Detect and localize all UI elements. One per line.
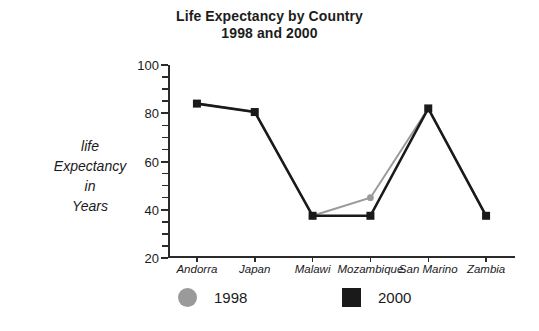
data-point-2000-japan [251,108,259,116]
series-line-1998 [197,104,486,216]
line-chart: Life Expectancy by Country 1998 and 2000… [0,0,539,331]
x-tick-label-malawi: Malawi [295,263,331,275]
chart-title: Life Expectancy by Country 1998 and 2000 [0,8,539,42]
x-tick-label-mozambique: Mozambique [337,263,403,275]
y-tick-label-40: 40 [145,203,159,216]
series-2000 [193,100,490,220]
y-tick-label-60: 60 [145,155,159,168]
series-1998 [194,100,490,219]
y-tick-20 [161,257,168,259]
y-tick-label-20: 20 [145,252,159,265]
chart-legend: 1998 2000 [0,288,539,322]
y-axis-label-line-4: Years [34,196,146,216]
legend-label-2000: 2000 [378,290,411,305]
data-point-2000-andorra [193,100,201,108]
y-axis-label: life Expectancy in Years [34,136,146,216]
x-tick-label-japan: Japan [239,263,270,275]
y-tick-80 [161,112,168,114]
series-layer [168,65,515,258]
legend-item-1998: 1998 [178,288,247,307]
chart-title-line-2: 1998 and 2000 [0,25,539,42]
data-point-1998-mozambique [367,194,374,201]
plot-area: 20406080100 AndorraJapanMalawiMozambique… [168,65,515,258]
legend-item-2000: 2000 [342,288,411,307]
data-point-2000-zambia [482,212,490,220]
gray-circle-marker-icon [178,288,197,307]
y-tick-60 [161,161,168,163]
black-square-marker-icon [342,288,361,307]
y-tick-40 [161,209,168,211]
series-line-2000 [197,104,486,216]
y-tick-label-100: 100 [137,59,159,72]
legend-label-1998: 1998 [214,290,247,305]
x-tick-label-andorra: Andorra [176,263,217,275]
y-tick-100 [161,64,168,66]
chart-title-line-1: Life Expectancy by Country [0,8,539,25]
x-tick-label-san-marino: San Marino [399,263,458,275]
data-point-2000-malawi [309,212,317,220]
y-tick-label-80: 80 [145,107,159,120]
y-axis-label-line-2: Expectancy [34,156,146,176]
y-axis-label-line-3: in [34,176,146,196]
x-tick-label-zambia: Zambia [467,263,505,275]
y-axis-label-line-1: life [34,136,146,156]
data-point-2000-san-marino [424,104,432,112]
data-point-2000-mozambique [366,212,374,220]
